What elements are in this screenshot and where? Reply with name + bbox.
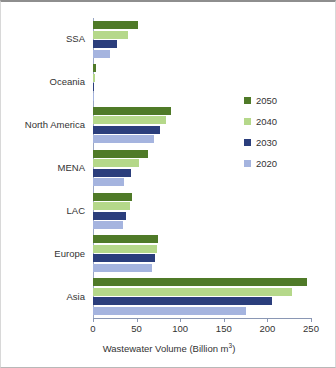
bar-north-america-2020 [93, 135, 154, 143]
bar-lac-2050 [93, 193, 132, 201]
bar-north-america-2040 [93, 116, 166, 124]
x-tick-label-0: 0 [90, 323, 95, 334]
bar-group [93, 61, 311, 104]
bar-group [93, 18, 311, 61]
legend-item-2030[interactable]: 2030 [244, 132, 277, 153]
bar-mena-2040 [93, 159, 139, 167]
bar-ssa-2020 [93, 50, 110, 58]
y-axis-label-lac: LAC [1, 205, 85, 216]
legend-label: 2030 [256, 137, 277, 148]
bar-lac-2040 [93, 202, 130, 210]
y-axis-label-ssa: SSA [1, 33, 85, 44]
x-tick-mark [224, 318, 225, 322]
x-tick-label-150: 150 [216, 323, 232, 334]
superscript-three: 3 [229, 342, 233, 349]
x-tick-mark [311, 318, 312, 322]
bar-mena-2030 [93, 169, 131, 177]
bar-group [93, 104, 311, 147]
bar-ssa-2040 [93, 31, 128, 39]
x-axis-line [93, 318, 312, 319]
bar-oceania-2020 [93, 93, 94, 101]
x-tick-mark [267, 318, 268, 322]
y-axis-label-north-america: North America [1, 119, 85, 130]
bar-group [93, 275, 311, 318]
bar-asia-2050 [93, 278, 307, 286]
bar-europe-2040 [93, 245, 157, 253]
y-axis-label-asia: Asia [1, 291, 85, 302]
bar-mena-2050 [93, 150, 148, 158]
bar-asia-2030 [93, 297, 272, 305]
x-tick-label-50: 50 [131, 323, 142, 334]
bar-group [93, 232, 311, 275]
bar-asia-2020 [93, 307, 246, 315]
bar-europe-2020 [93, 264, 152, 272]
bar-north-america-2050 [93, 107, 171, 115]
bar-europe-2030 [93, 254, 155, 262]
bar-mena-2020 [93, 178, 124, 186]
legend-item-2020[interactable]: 2020 [244, 153, 277, 174]
x-axis-title: Wastewater Volume (Billion m3) [1, 342, 336, 354]
bar-group [93, 189, 311, 232]
y-axis-label-mena: MENA [1, 162, 85, 173]
legend-label: 2020 [256, 158, 277, 169]
y-axis-label-oceania: Oceania [1, 76, 85, 87]
bar-oceania-2030 [93, 83, 94, 91]
legend-swatch-icon-2020 [244, 160, 251, 167]
bar-group [93, 147, 311, 190]
bar-oceania-2050 [93, 64, 96, 72]
chart-figure: 2050204020302020 Wastewater Volume (Bill… [0, 0, 336, 368]
bar-lac-2030 [93, 212, 126, 220]
bar-oceania-2040 [93, 74, 95, 82]
x-tick-label-200: 200 [259, 323, 275, 334]
legend-item-2040[interactable]: 2040 [244, 111, 277, 132]
plot-area [93, 18, 311, 318]
x-tick-mark [137, 318, 138, 322]
y-axis-label-europe: Europe [1, 248, 85, 259]
bar-lac-2020 [93, 221, 123, 229]
legend-label: 2050 [256, 95, 277, 106]
chart-legend: 2050204020302020 [244, 90, 277, 174]
legend-label: 2040 [256, 116, 277, 127]
x-tick-label-100: 100 [172, 323, 188, 334]
legend-item-2050[interactable]: 2050 [244, 90, 277, 111]
bar-north-america-2030 [93, 126, 160, 134]
legend-swatch-icon-2030 [244, 139, 251, 146]
bar-ssa-2050 [93, 21, 138, 29]
x-tick-mark [180, 318, 181, 322]
legend-swatch-icon-2040 [244, 118, 251, 125]
x-tick-mark [93, 318, 94, 322]
bar-asia-2040 [93, 288, 292, 296]
bar-europe-2050 [93, 235, 158, 243]
bar-ssa-2030 [93, 40, 117, 48]
x-tick-label-250: 250 [303, 323, 319, 334]
legend-swatch-icon-2050 [244, 97, 251, 104]
